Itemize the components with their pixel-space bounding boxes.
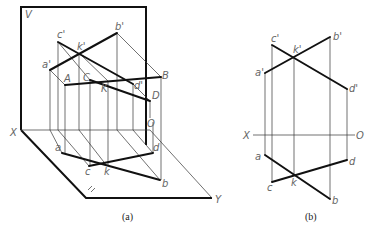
label-k-prime: k' bbox=[77, 41, 86, 52]
figure-a: V X Y O c' k' b' a' d' A C K B D a d c k… bbox=[9, 7, 222, 223]
h-plane-frame bbox=[21, 130, 212, 198]
line-c-prime-d-prime-b bbox=[272, 45, 347, 89]
label-V: V bbox=[25, 9, 33, 20]
label-a: a bbox=[55, 142, 61, 153]
label-b-prime: b' bbox=[115, 21, 124, 32]
label-X: X bbox=[9, 127, 18, 138]
h-plane-diagonal bbox=[150, 130, 212, 198]
label-c: c bbox=[85, 166, 91, 177]
label-d: d bbox=[153, 142, 160, 153]
label-O-b: O bbox=[356, 130, 364, 141]
caption-a: (a) bbox=[122, 211, 133, 223]
h-plane-hatch bbox=[88, 186, 95, 192]
label-d-prime-b: d' bbox=[349, 83, 358, 94]
label-b-b: b bbox=[332, 195, 338, 206]
label-c-b: c bbox=[267, 182, 273, 193]
figure-b: X O c' k' b' a' d' a d c k b (b) bbox=[242, 31, 364, 223]
label-D: D bbox=[152, 90, 160, 101]
label-k-prime-b: k' bbox=[293, 44, 302, 55]
label-k-b: k bbox=[291, 177, 298, 188]
line-cd-b bbox=[272, 160, 347, 182]
label-b: b bbox=[162, 178, 168, 189]
label-d-prime: d' bbox=[134, 80, 143, 91]
label-C: C bbox=[83, 72, 90, 83]
label-O: O bbox=[147, 118, 155, 129]
label-a-prime: a' bbox=[42, 59, 51, 70]
label-a-prime-b: a' bbox=[255, 67, 264, 78]
label-d-b: d bbox=[349, 156, 356, 167]
projectors-oblique bbox=[50, 33, 161, 180]
label-A: A bbox=[63, 73, 71, 84]
label-B: B bbox=[162, 70, 169, 81]
label-c-prime-b: c' bbox=[271, 33, 279, 44]
diagram-canvas: V X Y O c' k' b' a' d' A C K B D a d c k… bbox=[0, 0, 370, 235]
line-ab-b bbox=[265, 155, 330, 199]
caption-b: (b) bbox=[305, 211, 317, 223]
label-X-b: X bbox=[242, 130, 251, 141]
projectors-b bbox=[265, 37, 347, 199]
label-Y: Y bbox=[215, 194, 222, 205]
label-k: k bbox=[104, 166, 111, 177]
label-c-prime: c' bbox=[57, 29, 65, 40]
label-a-b: a bbox=[255, 151, 261, 162]
line-ab bbox=[62, 153, 160, 180]
label-b-prime-b: b' bbox=[333, 31, 342, 42]
